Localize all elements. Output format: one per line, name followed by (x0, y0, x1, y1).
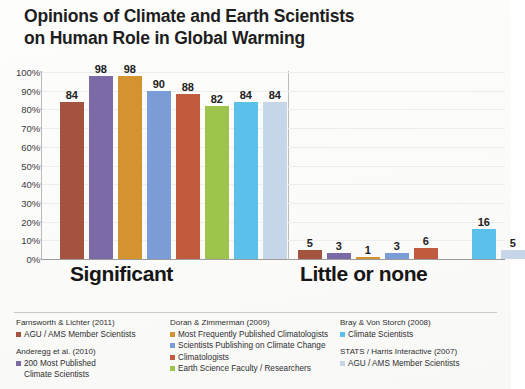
legend-divider (14, 312, 497, 313)
bar-value-label: 5 (510, 237, 516, 249)
plot-area: 849898908882848453136165 (42, 72, 505, 259)
bar-value-label: 16 (478, 216, 490, 228)
legend-group: Doran & Zimmerman (2009)Most Frequently … (170, 318, 336, 375)
bar: 5 (501, 250, 525, 259)
legend-study-citation: Anderegg et al. (2010) (16, 347, 166, 358)
bar-value-label: 84 (66, 89, 78, 101)
legend-item-label: Most Frequently Published Climatologists (178, 330, 328, 341)
legend-swatch-icon (170, 355, 175, 360)
legend-item[interactable]: 200 Most PublishedClimate Scientists (16, 359, 166, 381)
bar: 98 (118, 76, 142, 259)
y-axis-tick-mark (39, 259, 42, 260)
legend-study-citation: Doran & Zimmerman (2009) (170, 318, 336, 329)
y-axis-tick-mark (39, 109, 42, 110)
legend-item[interactable]: AGU / AMS Member Scientists (16, 330, 166, 341)
bar-value-label: 3 (336, 240, 342, 252)
y-axis-tick-10: 10% (0, 235, 40, 246)
y-axis-tick-mark (39, 128, 42, 129)
legend-item-label: Scientists Publishing on Climate Change (178, 341, 325, 352)
legend-item-label: AGU / AMS Member Scientists (24, 330, 135, 341)
legend-item-label: Climatologists (178, 353, 229, 364)
bar-value-label: 98 (95, 63, 107, 75)
bar: 98 (89, 76, 113, 259)
bar-chart: 100%90%80%70%60%50%40%30%20%10%0% 849898… (0, 62, 511, 302)
y-axis-tick-90: 90% (0, 85, 40, 96)
legend-item-label-line-2: Climate Scientists (24, 370, 96, 381)
legend: Farnsworth & Lichter (2011)AGU / AMS Mem… (0, 312, 511, 389)
bar-value-label: 88 (182, 81, 194, 93)
bar: 82 (205, 106, 229, 259)
bar: 84 (60, 102, 84, 259)
legend-swatch-icon (16, 332, 21, 337)
bar-value-label: 5 (307, 237, 313, 249)
y-axis-tick-70: 70% (0, 123, 40, 134)
legend-swatch-icon (16, 361, 21, 366)
legend-item[interactable]: Most Frequently Published Climatologists (170, 330, 336, 341)
bar: 88 (176, 94, 200, 259)
y-axis-tick-0: 0% (0, 254, 40, 265)
y-axis-tick-mark (39, 184, 42, 185)
bar-value-label: 6 (423, 235, 429, 247)
legend-group: Farnsworth & Lichter (2011)AGU / AMS Mem… (16, 318, 166, 341)
chart-title-line-1: Opinions of Climate and Earth Scientists (24, 6, 494, 28)
bar-value-label: 84 (240, 89, 252, 101)
y-axis-tick-20: 20% (0, 216, 40, 227)
bar-value-label: 84 (269, 89, 281, 101)
chart-title-line-2: on Human Role in Global Warming (24, 28, 494, 50)
y-axis-tick-50: 50% (0, 160, 40, 171)
legend-group: Anderegg et al. (2010)200 Most Published… (16, 347, 166, 381)
legend-group: STATS / Harris Interactive (2007)AGU / A… (340, 347, 511, 370)
y-axis-tick-40: 40% (0, 179, 40, 190)
y-axis-tick-80: 80% (0, 104, 40, 115)
bar-value-label: 90 (153, 78, 165, 90)
bar: 90 (147, 91, 171, 259)
legend-column-2: Doran & Zimmerman (2009)Most Frequently … (170, 318, 336, 381)
bar: 84 (234, 102, 258, 259)
y-axis-tick-labels: 100%90%80%70%60%50%40%30%20%10%0% (0, 62, 40, 302)
bar: 84 (263, 102, 287, 259)
bar: 5 (298, 250, 322, 259)
legend-item-label: Climate Scientists (348, 330, 413, 341)
legend-column-1: Farnsworth & Lichter (2011)AGU / AMS Mem… (16, 318, 166, 387)
legend-item[interactable]: AGU / AMS Member Scientists (340, 359, 511, 370)
x-axis-line (41, 259, 505, 260)
bar: 16 (472, 229, 496, 259)
legend-swatch-icon (170, 332, 175, 337)
y-axis-tick-30: 30% (0, 197, 40, 208)
y-axis-tick-mark (39, 221, 42, 222)
legend-study-citation: Farnsworth & Lichter (2011) (16, 318, 166, 329)
legend-item[interactable]: Scientists Publishing on Climate Change (170, 341, 336, 352)
y-axis-tick-60: 60% (0, 141, 40, 152)
bar-value-label: 82 (211, 93, 223, 105)
bar: 3 (385, 253, 409, 259)
gridline (42, 72, 505, 73)
legend-item-label: AGU / AMS Member Scientists (348, 359, 459, 370)
legend-item[interactable]: Climatologists (170, 353, 336, 364)
y-axis-tick-mark (39, 90, 42, 91)
legend-swatch-icon (170, 343, 175, 348)
y-axis-tick-mark (39, 202, 42, 203)
y-axis-tick-mark (39, 165, 42, 166)
category-label-2: Little or none (300, 262, 427, 286)
legend-item-label: Earth Science Faculty / Researchers (178, 364, 311, 375)
legend-column-3: Bray & Von Storch (2008)Climate Scientis… (340, 318, 511, 376)
bar: 1 (356, 257, 380, 259)
legend-study-citation: Bray & Von Storch (2008) (340, 318, 511, 329)
y-axis-tick-mark (39, 146, 42, 147)
legend-swatch-icon (170, 366, 175, 371)
category-label-1: Significant (70, 262, 173, 286)
bar-value-label: 98 (124, 63, 136, 75)
legend-item[interactable]: Climate Scientists (340, 330, 511, 341)
y-axis-tick-mark (39, 72, 42, 73)
y-axis-tick-mark (39, 240, 42, 241)
legend-item[interactable]: Earth Science Faculty / Researchers (170, 364, 336, 375)
legend-swatch-icon (340, 361, 345, 366)
bar-value-label: 1 (365, 244, 371, 256)
bar: 6 (414, 248, 438, 259)
bar-value-label: 3 (394, 240, 400, 252)
legend-study-citation: STATS / Harris Interactive (2007) (340, 347, 511, 358)
legend-group: Bray & Von Storch (2008)Climate Scientis… (340, 318, 511, 341)
chart-title: Opinions of Climate and Earth Scientists… (24, 6, 494, 49)
legend-swatch-icon (340, 332, 345, 337)
y-axis-tick-100: 100% (0, 67, 40, 78)
